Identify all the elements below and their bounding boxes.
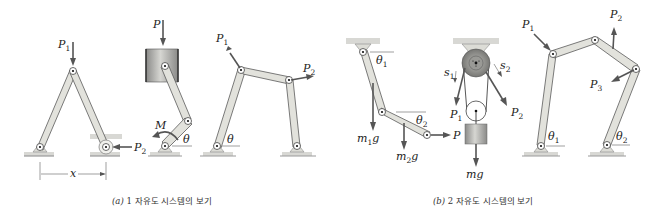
label-p2: P2 [609,8,622,23]
force-arrow-p1 [230,53,240,68]
piston-crank-mechanism: P M θ [146,18,192,156]
caption-a-letter: (a) [112,196,124,206]
label-p: P [452,129,461,142]
caption-b: (b) 2 자유도 시스템의 보기 [433,194,533,206]
mechanism-diagram: P1 P2 x [0,0,660,213]
force-arrow-p1 [534,34,546,46]
label-theta1: θ1 [548,130,559,145]
label-m2g: m2g [396,150,418,165]
label-x: x [70,167,77,180]
label-p1: P1 [521,18,534,33]
label-p: P [152,18,161,31]
label-m: M [154,119,167,132]
four-bar-mechanism: P1 P2 θ [200,32,316,156]
label-p3: P3 [589,78,602,93]
five-bar-mechanism: P1 P2 P3 θ1 θ2 [521,8,640,156]
caption-b-letter: (b) [433,196,445,206]
label-p2: P2 [133,141,146,156]
label-theta: θ [183,133,190,146]
label-p1: P1 [215,32,228,47]
label-p2: P2 [302,62,315,77]
force-arrow-p1 [457,68,465,100]
label-theta1: θ1 [376,54,387,69]
pulley-system-mechanism: mg P1 P2 s1 s2 [444,38,523,181]
label-theta2: θ2 [416,114,428,129]
label-m1g: m1g [357,132,379,147]
hanging-mass [465,124,487,144]
caption-b-text: 2 자유도 시스템의 보기 [448,196,534,206]
label-mg: mg [466,168,483,181]
force-arrow-p2 [486,72,503,100]
panel-b: θ1 θ2 m1g m2g P [346,8,640,181]
caption-a: (a) 1 자유도 시스템의 보기 [112,194,212,206]
label-theta: θ [227,133,234,146]
label-p1: P1 [449,108,462,123]
label-theta2: θ2 [616,130,628,145]
panel-a: P1 P2 x [24,18,316,180]
label-p1: P1 [57,38,70,53]
label-s2: s2 [500,59,511,74]
label-p2: P2 [510,106,523,121]
a-frame-mechanism: P1 P2 x [24,38,146,180]
label-s1: s1 [444,66,454,81]
caption-a-text: 1 자유도 시스템의 보기 [126,196,212,206]
double-pendulum-mechanism: θ1 θ2 m1g m2g P [346,38,461,165]
force-arrow-p2 [291,77,308,80]
